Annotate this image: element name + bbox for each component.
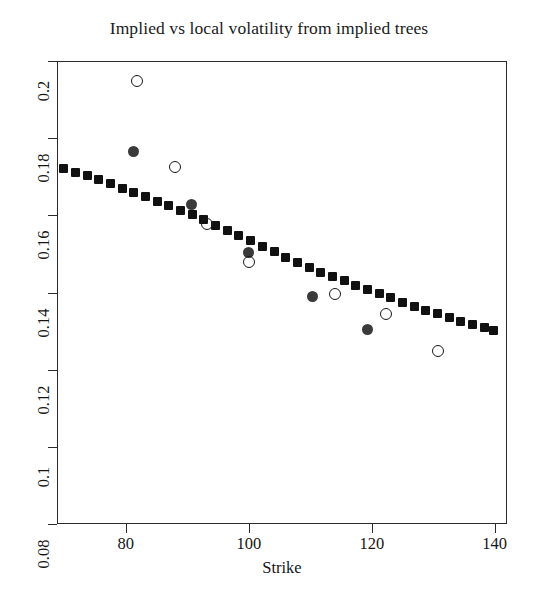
data-point [293, 258, 302, 267]
data-point [94, 175, 103, 184]
data-point [375, 289, 384, 298]
data-point [258, 242, 267, 251]
chart-title: Implied vs local volatility from implied… [0, 18, 538, 39]
data-point [201, 218, 213, 230]
data-point [340, 276, 349, 285]
data-point [243, 256, 255, 268]
x-tick-120 [372, 524, 373, 533]
data-point [362, 324, 373, 335]
data-point [186, 199, 197, 210]
data-point [351, 281, 360, 290]
data-point [246, 236, 255, 245]
x-tick-label-80: 80 [96, 534, 156, 554]
data-point [421, 306, 430, 315]
x-tick-80 [126, 524, 127, 533]
data-point [410, 302, 419, 311]
data-point [169, 161, 181, 173]
y-tick-label-0.18: 0.18 [34, 138, 54, 198]
data-point [131, 75, 143, 87]
data-point [328, 272, 337, 281]
y-tick-label-0.2: 0.2 [34, 61, 54, 121]
x-tick-100 [249, 524, 250, 533]
y-tick-label-0.12: 0.12 [34, 370, 54, 430]
data-point [363, 285, 372, 294]
data-point [456, 317, 465, 326]
data-point [59, 164, 68, 173]
x-tick-label-100: 100 [219, 534, 279, 554]
chart-figure: Implied vs local volatility from implied… [0, 0, 538, 600]
data-point [164, 201, 173, 210]
data-point [71, 168, 80, 177]
data-point [176, 206, 185, 215]
data-point [188, 210, 197, 219]
data-point [316, 268, 325, 277]
data-point [468, 320, 477, 329]
data-point [281, 253, 290, 262]
x-tick-label-140: 140 [465, 534, 525, 554]
data-point [380, 308, 392, 320]
y-tick-label-0.16: 0.16 [34, 215, 54, 275]
data-point [307, 291, 318, 302]
y-tick-label-0.08: 0.08 [34, 524, 54, 584]
data-point [329, 288, 341, 300]
data-point [106, 179, 115, 188]
data-point [433, 309, 442, 318]
data-point [234, 231, 243, 240]
data-point [480, 323, 489, 332]
data-point [445, 313, 454, 322]
data-point [270, 247, 279, 256]
x-tick-140 [495, 524, 496, 533]
data-point [141, 192, 150, 201]
data-point [305, 263, 314, 272]
data-point [398, 298, 407, 307]
y-tick-label-0.14: 0.14 [34, 293, 54, 353]
x-tick-label-120: 120 [342, 534, 402, 554]
y-tick-label-0.1: 0.1 [34, 447, 54, 507]
x-axis-label: Strike [57, 558, 507, 578]
data-point [83, 171, 92, 180]
data-point [386, 293, 395, 302]
data-point [489, 326, 498, 335]
data-point [129, 188, 138, 197]
data-point [223, 226, 232, 235]
data-point [432, 345, 444, 357]
data-point [118, 184, 127, 193]
data-points-layer [57, 61, 507, 524]
data-point [128, 146, 139, 157]
data-point [153, 197, 162, 206]
